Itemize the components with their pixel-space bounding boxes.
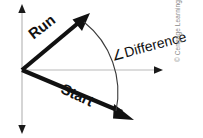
vertical-axis-arrowhead-up: [18, 4, 25, 13]
copyright-notice: © Cengage Learning 2013: [175, 0, 182, 62]
start-vector-arrowhead: [113, 104, 134, 120]
vertical-axis-arrowhead-down: [18, 125, 25, 134]
diagram-canvas: [0, 0, 203, 138]
horizontal-axis: [22, 66, 163, 73]
horizontal-axis-arrowhead-right: [154, 66, 163, 73]
angle-difference-diagram: Run Start ∠Difference © Cengage Learning…: [0, 0, 203, 138]
